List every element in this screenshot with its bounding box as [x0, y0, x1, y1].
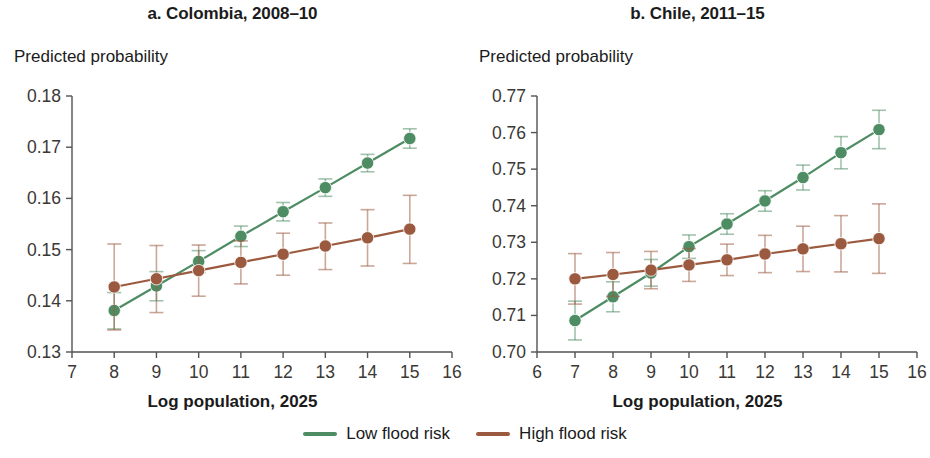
data-point-marker [721, 218, 733, 230]
data-point-marker [873, 123, 885, 135]
y-tick-label: 0.16 [27, 188, 61, 208]
x-tick-label: 16 [907, 362, 926, 382]
data-point-marker [797, 171, 809, 183]
data-point-marker [835, 146, 847, 158]
panel-colombia: a. Colombia, 2008–10 Predicted probabili… [0, 0, 465, 420]
x-tick-label: 9 [152, 362, 162, 382]
x-tick-label: 8 [109, 362, 119, 382]
y-tick-label: 0.70 [492, 342, 526, 362]
legend-swatch-high-flood-risk [476, 432, 510, 436]
data-point-marker [569, 273, 581, 285]
legend-label-low-flood-risk: Low flood risk [346, 424, 450, 444]
panel-a-plot: 0.130.140.150.160.170.187891011121314151… [0, 0, 465, 420]
x-tick-label: 7 [570, 362, 580, 382]
x-tick-label: 15 [400, 362, 419, 382]
x-tick-label: 10 [189, 362, 209, 382]
legend-item-high-flood-risk: High flood risk [476, 424, 627, 444]
data-point-marker [873, 232, 885, 244]
y-tick-label: 0.15 [27, 240, 61, 260]
y-tick-label: 0.17 [27, 137, 61, 157]
x-tick-label: 14 [358, 362, 378, 382]
x-tick-label: 10 [679, 362, 699, 382]
data-point-marker [361, 232, 373, 244]
data-point-marker [835, 238, 847, 250]
data-point-marker [569, 314, 581, 326]
data-point-marker [645, 264, 657, 276]
y-tick-label: 0.71 [492, 305, 526, 325]
panels-container: a. Colombia, 2008–10 Predicted probabili… [0, 0, 930, 420]
data-point-marker [150, 273, 162, 285]
x-tick-label: 12 [273, 362, 292, 382]
data-point-marker [192, 264, 204, 276]
series-low-flood-risk [568, 110, 886, 340]
y-tick-label: 0.77 [492, 86, 526, 106]
panel-chile: b. Chile, 2011–15 Predicted probability … [465, 0, 930, 420]
data-point-marker [235, 256, 247, 268]
x-tick-label: 13 [793, 362, 812, 382]
data-point-marker [721, 254, 733, 266]
data-point-marker [277, 206, 289, 218]
y-tick-label: 0.13 [27, 342, 61, 362]
x-tick-label: 8 [608, 362, 618, 382]
series-low-flood-risk [107, 129, 417, 329]
data-point-marker [108, 281, 120, 293]
data-point-marker [759, 195, 771, 207]
x-tick-label: 15 [869, 362, 888, 382]
x-tick-label: 11 [718, 362, 736, 382]
y-tick-label: 0.74 [492, 196, 526, 216]
data-point-marker [683, 259, 695, 271]
data-point-marker [319, 240, 331, 252]
x-tick-label: 11 [232, 362, 250, 382]
legend-label-high-flood-risk: High flood risk [519, 424, 627, 444]
x-tick-label: 12 [755, 362, 774, 382]
data-point-marker [797, 243, 809, 255]
data-point-marker [607, 268, 619, 280]
x-tick-label: 13 [316, 362, 335, 382]
chart-legend: Low flood risk High flood risk [0, 424, 930, 444]
data-point-marker [404, 132, 416, 144]
x-tick-label: 9 [646, 362, 656, 382]
data-point-marker [277, 248, 289, 260]
y-tick-label: 0.14 [27, 291, 61, 311]
data-point-marker [759, 248, 771, 260]
y-tick-label: 0.73 [492, 232, 526, 252]
x-tick-label: 7 [67, 362, 77, 382]
y-tick-label: 0.18 [27, 86, 61, 106]
legend-swatch-low-flood-risk [303, 432, 337, 436]
figure-root: a. Colombia, 2008–10 Predicted probabili… [0, 0, 930, 458]
x-tick-label: 14 [831, 362, 851, 382]
legend-item-low-flood-risk: Low flood risk [303, 424, 450, 444]
x-tick-label: 6 [532, 362, 542, 382]
panel-b-plot: 0.700.710.720.730.740.750.760.7767891011… [465, 0, 930, 420]
x-tick-label: 16 [442, 362, 461, 382]
y-tick-label: 0.76 [492, 123, 526, 143]
data-point-marker [319, 181, 331, 193]
y-tick-label: 0.72 [492, 269, 526, 289]
data-point-marker [404, 223, 416, 235]
panel-a-x-axis-label: Log population, 2025 [0, 392, 465, 412]
y-tick-label: 0.75 [492, 159, 526, 179]
panel-b-x-axis-label: Log population, 2025 [465, 392, 930, 412]
data-point-marker [361, 157, 373, 169]
series-high-flood-risk [107, 195, 417, 330]
